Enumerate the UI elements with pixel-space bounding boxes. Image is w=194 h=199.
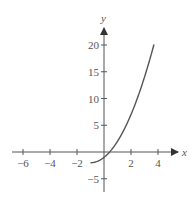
x-axis-label: x [181,146,187,158]
y-axis-label: y [100,12,106,24]
data-curve [91,45,154,163]
chart: xy−6−4−2242015105−5 [0,0,194,199]
x-tick-label: 2 [128,157,134,169]
y-tick-label: −5 [87,173,99,185]
y-tick-label: 20 [88,39,100,51]
axes [12,28,178,192]
x-tick-label: −2 [71,157,83,169]
x-tick-label: −6 [17,157,29,169]
x-tick-label: −4 [44,157,56,169]
y-tick-label: 10 [88,93,100,105]
y-tick-label: 15 [88,66,100,78]
x-tick-label: 4 [155,157,161,169]
y-tick-label: 5 [94,119,100,131]
